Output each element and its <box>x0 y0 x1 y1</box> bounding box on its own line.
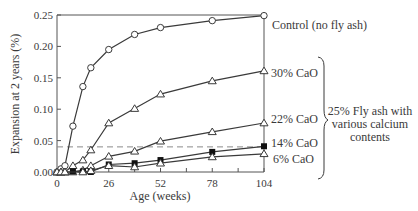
x-tick-label: 104 <box>256 177 273 189</box>
triangle-marker-icon <box>260 119 268 126</box>
label-14-cao: 14% CaO <box>271 136 318 150</box>
x-axis-label: Age (weeks) <box>130 189 191 203</box>
label-22-cao: 22% CaO <box>271 112 318 126</box>
brace-text-line-2: various calcium <box>332 117 409 131</box>
axes: 0.000.050.100.150.200.250265278104 <box>34 9 273 189</box>
triangle-marker-icon <box>131 105 139 112</box>
expansion-chart: 0.000.050.100.150.200.250265278104 Age (… <box>0 0 418 211</box>
chart-svg: 0.000.050.100.150.200.250265278104 Age (… <box>0 0 418 211</box>
triangle-marker-icon <box>105 119 113 126</box>
y-tick-label: 0.05 <box>34 135 54 147</box>
y-tick-label: 0.00 <box>34 166 54 178</box>
circle-marker-icon <box>106 46 112 52</box>
label-control: Control (no fly ash) <box>272 18 367 32</box>
data-series <box>53 12 268 175</box>
x-tick-label: 78 <box>207 177 219 189</box>
circle-marker-icon <box>209 17 215 23</box>
brace-text-line-1: 25% Fly ash with <box>328 104 412 118</box>
label-6-cao: 6% CaO <box>273 152 314 166</box>
circle-marker-icon <box>88 65 94 71</box>
brace-annotation: 25% Fly ash with various calcium content… <box>328 104 412 144</box>
brace-text-line-3: contents <box>350 130 390 144</box>
y-axis-label: Expansion at 2 years (%) <box>8 34 22 155</box>
square-marker-icon <box>261 143 267 149</box>
y-tick-label: 0.20 <box>34 40 54 52</box>
x-tick-label: 26 <box>103 177 115 189</box>
circle-marker-icon <box>157 24 163 30</box>
triangle-marker-icon <box>260 150 268 157</box>
y-tick-label: 0.25 <box>34 9 54 21</box>
series-14-cao <box>70 143 267 175</box>
triangle-marker-icon <box>260 67 268 74</box>
y-tick-label: 0.15 <box>34 72 54 84</box>
x-tick-label: 0 <box>54 177 60 189</box>
circle-marker-icon <box>70 123 76 129</box>
label-30-cao: 30% CaO <box>271 66 318 80</box>
circle-marker-icon <box>261 12 267 18</box>
square-marker-icon <box>70 168 76 174</box>
y-tick-label: 0.10 <box>34 103 54 115</box>
x-tick-label: 52 <box>155 177 166 189</box>
series-line <box>57 71 264 172</box>
brace-icon <box>318 57 328 179</box>
circle-marker-icon <box>131 31 137 37</box>
circle-marker-icon <box>80 83 86 89</box>
